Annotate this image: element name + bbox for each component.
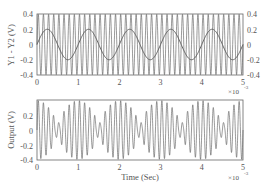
- bottom-xtick: 2: [117, 163, 121, 172]
- bottom-ytick: -0.4: [20, 156, 33, 165]
- bottom-xtick: 3: [159, 163, 163, 172]
- top-ytick: 0.2: [23, 26, 33, 35]
- bottom-x-multiplier: ×10 -3: [228, 171, 249, 182]
- top-xtick: 0: [35, 78, 39, 87]
- top-ytick-right: 0.4: [247, 10, 257, 19]
- x-multiplier-base: ×10: [228, 88, 239, 96]
- bottom-xtick: 1: [76, 163, 80, 172]
- bottom-x-label: Time (Sec): [121, 172, 159, 182]
- top-y-ticks-left: 0.4 0.2 0 -0.2 -0.4: [20, 10, 33, 80]
- x-multiplier-exponent: -3: [244, 171, 249, 176]
- top-y-label: Y1 - Y2 (V): [6, 24, 16, 66]
- top-ytick-right: 0: [247, 41, 251, 50]
- top-ytick: -0.2: [20, 56, 33, 65]
- bottom-x-ticks: 0 1 2 3 4 5: [35, 163, 245, 172]
- bottom-ytick: -0.2: [20, 142, 33, 151]
- top-plot-lines: [37, 14, 243, 74]
- top-ytick-right: 0.2: [247, 26, 257, 35]
- bottom-y-ticks: 0.2 0 -0.2 -0.4: [20, 112, 33, 166]
- top-xtick: 4: [200, 78, 204, 87]
- bottom-ytick: 0: [29, 127, 33, 136]
- top-ytick-right: -0.2: [247, 56, 260, 65]
- top-x-multiplier: ×10 -3: [228, 85, 249, 96]
- bottom-xtick: 4: [200, 163, 204, 172]
- top-ytick-right: -0.4: [247, 71, 260, 80]
- top-ytick: 0.4: [23, 10, 33, 19]
- bottom-y-label: Output (V): [6, 111, 16, 149]
- top-ytick: 0: [29, 41, 33, 50]
- top-plot: 0.4 0.2 0 -0.2 -0.4 0.4 0.2 0 -0.2 -0.4 …: [6, 10, 260, 96]
- x-multiplier-exponent: -3: [244, 85, 249, 90]
- top-x-ticks: 0 1 2 3 4 5: [35, 78, 245, 87]
- figure: 0.4 0.2 0 -0.2 -0.4 0.4 0.2 0 -0.2 -0.4 …: [0, 0, 272, 195]
- bottom-plot-lines: [37, 101, 243, 160]
- top-xtick: 2: [117, 78, 121, 87]
- bottom-plot: 0.2 0 -0.2 -0.4 0 1 2 3 4 5 ×10 -3 Time …: [6, 100, 249, 182]
- bottom-xtick: 0: [35, 163, 39, 172]
- top-y-ticks-right: 0.4 0.2 0 -0.2 -0.4: [247, 10, 260, 80]
- bottom-ytick: 0.2: [23, 112, 33, 121]
- top-xtick: 3: [159, 78, 163, 87]
- top-ytick: -0.4: [20, 71, 33, 80]
- x-multiplier-base: ×10: [228, 174, 239, 182]
- top-xtick: 1: [76, 78, 80, 87]
